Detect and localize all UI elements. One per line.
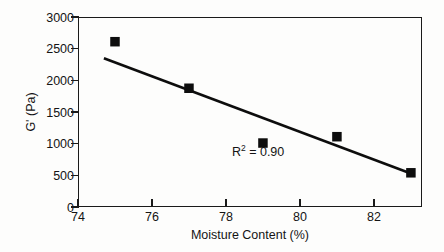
x-axis-tick-label: 78 (202, 211, 250, 224)
data-point-marker (332, 132, 342, 142)
x-axis-tick-label: 82 (350, 211, 398, 224)
x-axis-tick-label: 80 (276, 211, 324, 224)
x-axis-title: Moisture Content (%) (78, 228, 422, 242)
plot-canvas (78, 17, 422, 207)
r-squared-annotation: R2 = 0.90 (232, 146, 284, 159)
x-axis-tick-label: 74 (54, 211, 102, 224)
data-point-marker (406, 168, 416, 178)
r-symbol: R (232, 145, 241, 159)
data-point-marker (184, 84, 194, 94)
r-value: = 0.90 (246, 145, 285, 159)
x-axis-tick-label: 76 (128, 211, 176, 224)
data-point-marker (110, 37, 120, 47)
y-axis-title: G' (Pa) (22, 17, 40, 207)
chart-figure: 050010001500200025003000 7476788082 R2 =… (0, 0, 444, 252)
